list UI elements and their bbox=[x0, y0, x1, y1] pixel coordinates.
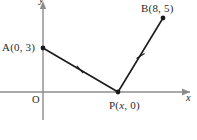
tick-mark-ap bbox=[77, 66, 83, 73]
y-axis-label: y bbox=[39, 0, 44, 6]
diagram-canvas bbox=[0, 0, 197, 140]
x-axis-label: x bbox=[186, 93, 191, 104]
origin-label: O bbox=[32, 95, 40, 106]
point-b-marker bbox=[161, 16, 166, 21]
point-p-label-prefix: P( bbox=[109, 99, 119, 111]
point-a-label: A(0, 3) bbox=[2, 42, 35, 53]
point-p-label: P(x, 0) bbox=[109, 100, 140, 111]
point-b-label: B(8, 5) bbox=[141, 3, 174, 14]
point-p-label-suffix: , 0) bbox=[124, 99, 139, 111]
point-a-marker bbox=[41, 46, 46, 51]
segment-pb bbox=[118, 18, 163, 92]
coordinate-diagram: A(0, 3) B(8, 5) P(x, 0) O x y bbox=[0, 0, 197, 140]
point-p-marker bbox=[116, 90, 121, 95]
